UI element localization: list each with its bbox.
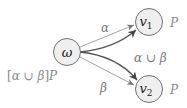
node-v1: v1 xyxy=(136,9,163,36)
edge-union-to-v2 xyxy=(80,52,137,80)
v1-annotation: P xyxy=(169,16,179,30)
node-omega-label: ω xyxy=(62,45,73,60)
node-omega: ω xyxy=(54,39,81,66)
edge-union-label: α ∪ β xyxy=(134,51,167,65)
modal-logic-diagram: ω v1 v2 P P α β α ∪ β [α ∪ β]P xyxy=(0,0,187,108)
edge-alpha-label: α xyxy=(101,21,109,35)
edge-beta-label: β xyxy=(99,81,107,95)
v2-annotation: P xyxy=(169,83,179,97)
node-v2-subscript: 2 xyxy=(147,88,153,98)
edge-beta xyxy=(80,57,134,85)
node-v1-subscript: 1 xyxy=(147,21,153,31)
node-v2: v2 xyxy=(136,76,163,103)
formula-label: [α ∪ β]P xyxy=(7,69,58,83)
